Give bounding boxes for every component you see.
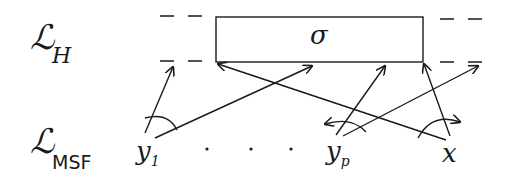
arrow-yp-to-box <box>336 66 385 135</box>
dashed-line-right <box>440 19 490 62</box>
dashed-line-left <box>160 16 205 61</box>
level-label-top: ℒH <box>30 20 73 54</box>
yp-var: y <box>326 136 341 166</box>
arrow-x-to-box-left <box>218 64 446 140</box>
y1-var: y <box>136 136 151 166</box>
angle-arc-x <box>418 119 460 138</box>
node-yp: yp <box>326 138 350 164</box>
y1-subscript: 1 <box>151 153 160 169</box>
node-x: x <box>442 140 457 166</box>
script-L-top: ℒ <box>30 17 54 57</box>
node-y1: y1 <box>136 138 160 164</box>
arrow-yp-right <box>343 66 478 136</box>
arrow-y1-to-box <box>155 66 312 138</box>
arrow-y1-up <box>145 67 173 133</box>
level-label-bottom: ℒMSF <box>30 124 93 158</box>
subscript-H: H <box>52 43 71 68</box>
sigma-label: σ <box>310 22 328 48</box>
ellipsis-dots <box>205 147 292 150</box>
script-L-bottom: ℒ <box>30 121 54 161</box>
yp-subscript: p <box>341 153 350 169</box>
angle-arc-yp <box>325 121 366 132</box>
subscript-MSF: MSF <box>52 151 91 173</box>
